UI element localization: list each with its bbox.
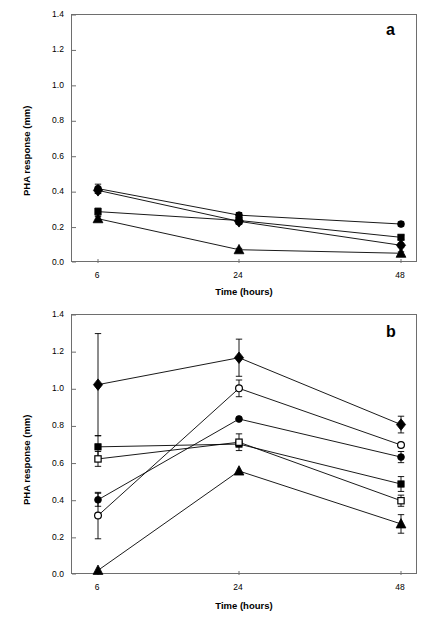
data-point-filled-triangle [396,519,406,528]
data-point-open-circle [95,512,102,519]
y-tick-label: 0.0 [0,258,64,267]
series-line [98,388,401,515]
series-line [98,471,401,570]
data-point-filled-circle [95,496,102,503]
series-line [98,219,401,254]
data-point-open-circle [398,442,405,449]
data-point-filled-diamond [93,185,102,196]
plot-area-a [71,14,417,262]
y-tick-label: 0.6 [0,151,64,160]
series-line [98,358,401,425]
y-axis-title-b: PHA response (mm) [22,415,32,505]
series-4-filled-triangle [93,213,406,257]
panel-label-a: a [386,22,395,38]
data-point-filled-diamond [396,419,405,430]
panel-label-b: b [386,324,396,340]
series-5-open-square [95,434,404,506]
y-tick-label: 1.2 [0,347,64,356]
series-2-open-circle [95,380,405,539]
x-tick-label: 48 [395,271,404,280]
series-3-filled-circle [95,416,405,507]
x-tick-label: 6 [95,271,100,280]
x-tick-label: 6 [95,583,100,592]
plot-canvas-a [72,15,418,263]
x-tick-label: 24 [233,271,242,280]
data-point-open-square [236,439,242,445]
plot-canvas-b [72,315,418,575]
panel-b: 0.00.20.40.60.81.01.21.4 62448 Time (hou… [0,309,422,619]
y-tick-label: 1.2 [0,45,64,54]
y-tick-label: 0.4 [0,187,64,196]
data-point-filled-triangle [93,565,103,574]
x-tick-label: 24 [233,583,242,592]
y-tick-label: 1.0 [0,384,64,393]
data-point-filled-triangle [234,466,244,475]
y-tick-label: 1.4 [0,310,64,319]
data-point-filled-circle [236,416,243,423]
x-axis-title-a: Time (hours) [215,287,272,297]
y-tick-label: 0.8 [0,421,64,430]
y-axis-title-a: PHA response (mm) [22,106,32,196]
series-1-filled-circle [95,184,405,227]
data-point-open-circle [236,385,243,392]
series-6-filled-triangle [93,466,406,575]
data-point-filled-circle [398,454,405,461]
y-tick-label: 0.2 [0,533,64,542]
series-line [98,189,401,224]
data-point-open-square [398,498,404,504]
figure-container: 0.00.20.40.60.81.01.21.4 62448 Time (hou… [0,0,422,619]
data-point-filled-circle [398,221,405,228]
y-tick-label: 0.2 [0,222,64,231]
plot-area-b [71,314,417,574]
y-tick-label: 1.0 [0,81,64,90]
panel-a: 0.00.20.40.60.81.01.21.4 62448 Time (hou… [0,0,422,310]
data-point-filled-square [398,481,404,487]
series-2-filled-square [95,208,404,240]
y-tick-label: 0.0 [0,570,64,579]
series-1-filled-diamond [93,334,405,436]
data-point-filled-square [95,444,101,450]
y-tick-label: 0.8 [0,116,64,125]
series-line [98,419,401,500]
y-tick-label: 0.4 [0,495,64,504]
series-line [98,442,401,501]
data-point-filled-triangle [396,248,406,257]
series-line [98,190,401,245]
series-4-filled-square [95,436,404,492]
data-point-filled-diamond [234,352,243,363]
y-tick-label: 1.4 [0,10,64,19]
x-axis-title-b: Time (hours) [215,601,272,611]
series-line [98,444,401,484]
series-3-filled-diamond [93,185,405,251]
data-point-open-square [95,456,101,462]
y-tick-label: 0.6 [0,458,64,467]
x-tick-label: 48 [395,583,404,592]
data-point-filled-diamond [93,379,102,390]
